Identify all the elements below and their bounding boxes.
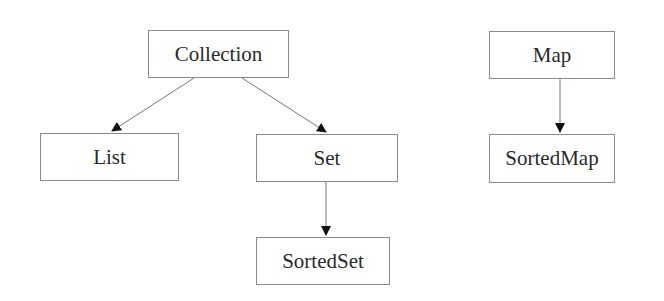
node-label: SortedMap xyxy=(505,146,598,171)
node-collection: Collection xyxy=(148,30,289,78)
node-label: List xyxy=(93,145,126,170)
edge-collection-set xyxy=(242,78,326,132)
edge-collection-list xyxy=(112,78,194,131)
node-sortedset: SortedSet xyxy=(256,237,390,285)
node-label: SortedSet xyxy=(282,249,364,274)
node-list: List xyxy=(40,133,179,181)
node-label: Set xyxy=(314,146,341,171)
node-set: Set xyxy=(256,134,398,182)
node-label: Map xyxy=(533,43,572,68)
node-label: Collection xyxy=(175,42,263,67)
node-sortedmap: SortedMap xyxy=(489,134,615,183)
node-map: Map xyxy=(489,31,615,79)
